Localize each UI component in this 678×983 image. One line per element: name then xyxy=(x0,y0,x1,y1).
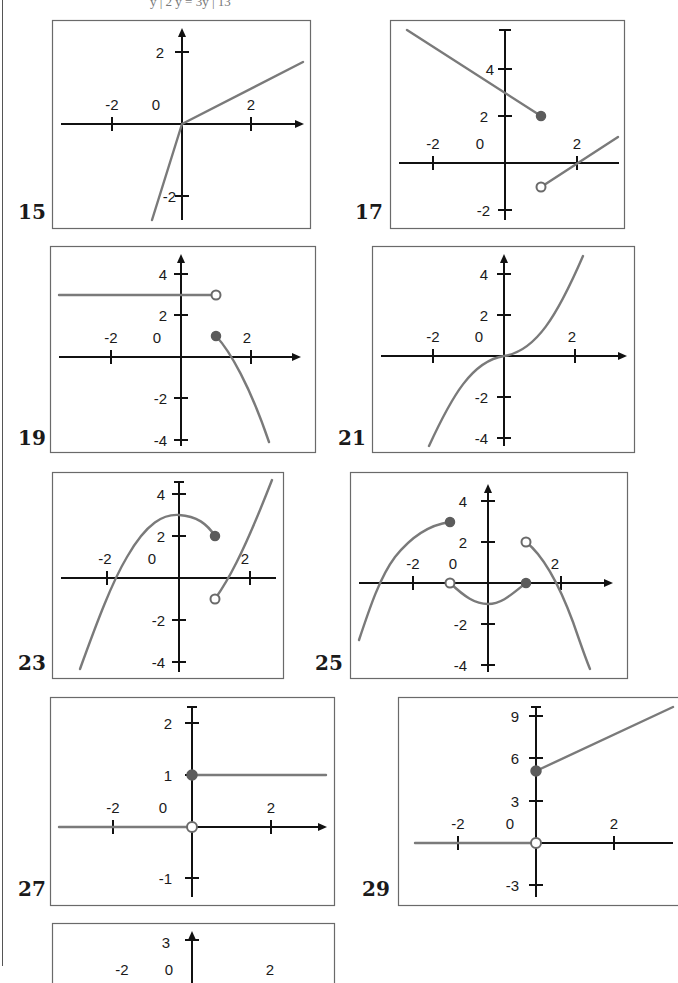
y-tick-label: 4 xyxy=(480,266,488,283)
graph-23: -2 0 2 4 2 -2 -4 xyxy=(52,472,285,680)
origin-label: 0 xyxy=(476,135,484,152)
open-dot xyxy=(531,838,541,848)
x-tick-label: 2 xyxy=(551,555,559,572)
origin-label: 0 xyxy=(475,328,483,345)
y-tick-label: 3 xyxy=(162,934,170,951)
exercise-number-27: 27 xyxy=(18,877,46,901)
x-tick-label: -2 xyxy=(451,815,464,832)
x-tick-label: 2 xyxy=(243,329,251,346)
graph-19: -2 0 2 4 2 -2 -4 xyxy=(50,246,317,454)
x-tick-label: -2 xyxy=(98,550,111,567)
y-tick-label: -4 xyxy=(152,654,165,671)
graph-25: -2 0 2 4 2 -2 -4 xyxy=(350,472,629,680)
open-dot xyxy=(211,595,220,604)
exercise-number-15: 15 xyxy=(18,200,46,224)
x-tick-label: 2 xyxy=(573,135,581,152)
closed-dot xyxy=(187,770,197,780)
x-tick-label: 2 xyxy=(247,96,255,113)
y-tick-label: 2 xyxy=(459,534,467,551)
y-tick-label: -1 xyxy=(159,870,172,887)
origin-label: 0 xyxy=(165,961,173,978)
origin-label: 0 xyxy=(449,555,457,572)
y-tick-label: 4 xyxy=(486,61,494,78)
y-tick-label: 4 xyxy=(159,266,167,283)
x-tick-label: 2 xyxy=(610,815,618,832)
closed-dot xyxy=(212,332,221,341)
x-tick-label: 2 xyxy=(267,799,275,816)
y-tick-label: -2 xyxy=(154,390,167,407)
y-tick-label: 9 xyxy=(511,708,519,725)
x-tick-label: -2 xyxy=(105,96,118,113)
graph-15: -2 0 2 2 -2 xyxy=(52,20,312,230)
x-tick-label: -2 xyxy=(406,555,419,572)
y-tick-label: 3 xyxy=(511,793,519,810)
x-tick-label: 2 xyxy=(568,328,576,345)
graph-21: -2 0 2 4 2 -2 -4 xyxy=(372,246,636,454)
closed-dot xyxy=(446,518,455,527)
y-tick-label: 1 xyxy=(164,767,172,784)
graph-29: -2 0 2 9 6 3 -3 xyxy=(398,697,678,907)
y-tick-label: -2 xyxy=(152,612,165,629)
open-dot xyxy=(187,822,197,832)
y-tick-label: -2 xyxy=(477,202,490,219)
x-tick-label: -2 xyxy=(104,329,117,346)
exercise-number-29: 29 xyxy=(362,877,390,901)
closed-dot xyxy=(537,112,546,121)
header-equation-fragment: y | 2 y = 3y | 13 xyxy=(150,0,231,10)
origin-label: 0 xyxy=(148,550,156,567)
y-tick-label: 6 xyxy=(511,750,519,767)
exercise-number-21: 21 xyxy=(338,426,366,450)
graph-31-partial: 3 -2 0 2 xyxy=(52,923,336,983)
origin-label: 0 xyxy=(506,815,514,832)
y-tick-label: 2 xyxy=(157,528,165,545)
y-tick-label: -2 xyxy=(454,616,467,633)
y-tick-label: -2 xyxy=(475,389,488,406)
y-tick-label: -4 xyxy=(154,432,167,449)
origin-label: 0 xyxy=(159,799,167,816)
origin-label: 0 xyxy=(153,329,161,346)
page-left-rule xyxy=(2,0,3,966)
x-tick-label: -2 xyxy=(106,799,119,816)
y-tick-label: -4 xyxy=(454,657,467,674)
y-tick-label: -3 xyxy=(506,877,519,894)
origin-label: 0 xyxy=(152,96,160,113)
x-tick-label: -2 xyxy=(426,135,439,152)
exercise-number-19: 19 xyxy=(18,426,46,450)
x-tick-label: -2 xyxy=(426,328,439,345)
open-dot xyxy=(446,579,455,588)
exercise-number-25: 25 xyxy=(315,651,343,675)
y-tick-label: 2 xyxy=(159,307,167,324)
y-tick-label: -4 xyxy=(475,430,488,447)
y-tick-label: 2 xyxy=(156,44,164,61)
closed-dot xyxy=(531,766,541,776)
x-tick-label: -2 xyxy=(115,961,128,978)
closed-dot xyxy=(522,579,531,588)
y-tick-label: 2 xyxy=(164,715,172,732)
y-tick-label: 4 xyxy=(157,486,165,503)
x-tick-label: 2 xyxy=(266,961,274,978)
y-tick-label: 2 xyxy=(480,108,488,125)
y-tick-label: -2 xyxy=(163,188,176,205)
exercise-number-23: 23 xyxy=(18,651,46,675)
y-tick-label: 2 xyxy=(480,307,488,324)
open-dot xyxy=(212,291,221,300)
y-tick-label: 4 xyxy=(459,493,467,510)
graph-17: -2 0 2 4 2 -2 xyxy=(390,20,626,230)
graph-27: -2 0 2 2 1 -1 xyxy=(50,697,336,907)
open-dot xyxy=(522,538,531,547)
closed-dot xyxy=(211,532,220,541)
open-dot xyxy=(537,183,546,192)
exercise-number-17: 17 xyxy=(355,200,383,224)
